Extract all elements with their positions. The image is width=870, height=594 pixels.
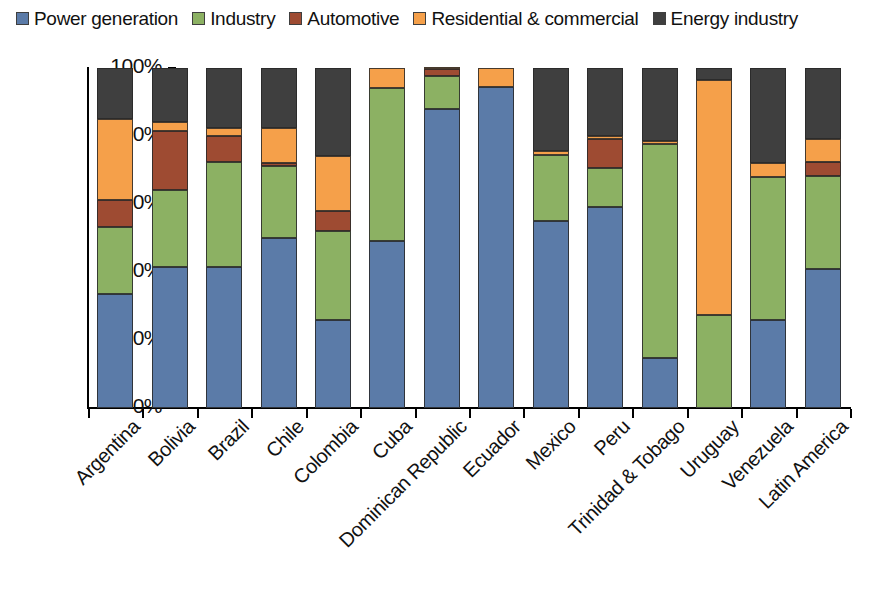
bar-segment[interactable] xyxy=(805,162,841,177)
bar-segment[interactable] xyxy=(206,68,242,128)
bar-segment[interactable] xyxy=(206,162,242,267)
bar-segment[interactable] xyxy=(424,109,460,408)
bar-column[interactable] xyxy=(206,68,242,408)
bar-segment[interactable] xyxy=(97,68,133,119)
x-axis-label: Argentina xyxy=(0,416,143,594)
bar-segment[interactable] xyxy=(696,315,732,409)
bar-segment[interactable] xyxy=(369,68,405,88)
bar-segment[interactable] xyxy=(587,136,623,139)
bar-segment[interactable] xyxy=(750,177,786,320)
bar-segment[interactable] xyxy=(261,163,297,166)
bar-segment[interactable] xyxy=(152,122,188,131)
bar-column[interactable] xyxy=(533,68,569,408)
x-axis-label: Dominican Republic xyxy=(173,416,470,594)
bar-segment[interactable] xyxy=(152,190,188,267)
bar-segment[interactable] xyxy=(261,128,297,164)
x-axis-tick-mark xyxy=(360,409,362,418)
bar-segment[interactable] xyxy=(750,163,786,177)
x-axis-tick-mark xyxy=(197,409,199,418)
legend-swatch-icon xyxy=(653,12,666,25)
x-axis-tick-mark xyxy=(306,409,308,418)
bar-column[interactable] xyxy=(152,68,188,408)
bar-segment[interactable] xyxy=(152,68,188,122)
bar-segment[interactable] xyxy=(152,267,188,408)
bar-column[interactable] xyxy=(696,68,732,408)
bar-column[interactable] xyxy=(587,68,623,408)
bar-segment[interactable] xyxy=(805,139,841,161)
bar-segment[interactable] xyxy=(261,166,297,238)
bar-column[interactable] xyxy=(805,68,841,408)
bar-segment[interactable] xyxy=(587,207,623,408)
bar-column[interactable] xyxy=(315,68,351,408)
bar-segment[interactable] xyxy=(587,139,623,168)
bar-segment[interactable] xyxy=(424,67,460,69)
bar-segment[interactable] xyxy=(642,68,678,141)
bar-segment[interactable] xyxy=(97,227,133,294)
bar-segment[interactable] xyxy=(261,238,297,408)
bar-column[interactable] xyxy=(642,68,678,408)
bar-segment[interactable] xyxy=(533,68,569,151)
x-axis-tick-mark xyxy=(523,409,525,418)
bar-column[interactable] xyxy=(750,68,786,408)
bar-segment[interactable] xyxy=(315,68,351,156)
bar-segment[interactable] xyxy=(369,241,405,408)
legend-entry: Industry xyxy=(192,9,275,28)
bar-segment[interactable] xyxy=(642,141,678,144)
legend-swatch-icon xyxy=(413,12,426,25)
bar-segment[interactable] xyxy=(587,68,623,136)
x-axis-label: Chile xyxy=(10,416,307,594)
bar-column[interactable] xyxy=(478,68,514,408)
bar-segment[interactable] xyxy=(750,68,786,163)
legend-label: Energy industry xyxy=(671,9,799,28)
x-axis-tick-mark xyxy=(741,409,743,418)
bar-segment[interactable] xyxy=(587,168,623,207)
bar-segment[interactable] xyxy=(696,68,732,80)
x-axis-tick-mark xyxy=(415,409,417,418)
legend-swatch-icon xyxy=(16,12,29,25)
bar-segment[interactable] xyxy=(315,156,351,210)
bar-segment[interactable] xyxy=(315,211,351,231)
x-axis-tick-mark xyxy=(88,409,90,418)
bar-segment[interactable] xyxy=(533,221,569,408)
bar-segment[interactable] xyxy=(315,320,351,408)
bar-segment[interactable] xyxy=(97,200,133,227)
bar-segment[interactable] xyxy=(642,358,678,408)
bar-segment[interactable] xyxy=(206,128,242,137)
bar-segment[interactable] xyxy=(369,88,405,241)
bar-column[interactable] xyxy=(424,68,460,408)
bar-segment[interactable] xyxy=(97,119,133,200)
bar-column[interactable] xyxy=(369,68,405,408)
legend-label: Residential & commercial xyxy=(431,9,638,28)
bar-segment[interactable] xyxy=(315,231,351,320)
bar-segment[interactable] xyxy=(206,136,242,162)
bar-segment[interactable] xyxy=(750,320,786,408)
bar-segment[interactable] xyxy=(642,144,678,358)
bar-segment[interactable] xyxy=(97,294,133,408)
x-axis-label: Uruguay xyxy=(445,416,742,594)
bar-segment[interactable] xyxy=(696,80,732,315)
stacked-bar-chart: Power generationIndustryAutomotiveReside… xyxy=(0,0,870,594)
chart-legend: Power generationIndustryAutomotiveReside… xyxy=(16,5,798,31)
bar-segment[interactable] xyxy=(478,68,514,87)
x-axis-tick-mark xyxy=(469,409,471,418)
x-axis-tick-mark xyxy=(850,409,852,418)
bar-segment[interactable] xyxy=(206,267,242,408)
x-axis-label: Venezuela xyxy=(500,416,797,594)
plot-area: 0%20%40%60%80%100% xyxy=(88,68,850,408)
bar-segment[interactable] xyxy=(533,151,569,154)
legend-label: Automotive xyxy=(307,9,399,28)
x-axis-tick-mark xyxy=(796,409,798,418)
bar-column[interactable] xyxy=(261,68,297,408)
x-axis-tick-mark xyxy=(251,409,253,418)
bar-segment[interactable] xyxy=(478,87,514,408)
bar-segment[interactable] xyxy=(152,131,188,191)
bar-segment[interactable] xyxy=(533,155,569,221)
bar-column[interactable] xyxy=(97,68,133,408)
bar-segment[interactable] xyxy=(805,68,841,139)
bar-segment[interactable] xyxy=(424,69,460,76)
bar-segment[interactable] xyxy=(424,76,460,109)
bar-segment[interactable] xyxy=(261,68,297,128)
legend-entry: Power generation xyxy=(16,9,178,28)
bar-segment[interactable] xyxy=(805,269,841,408)
bar-segment[interactable] xyxy=(805,176,841,268)
